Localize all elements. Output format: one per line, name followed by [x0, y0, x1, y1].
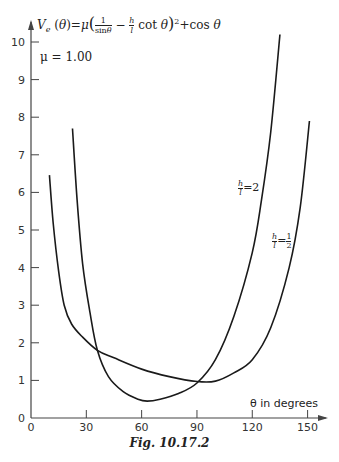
x-tick-label: 150	[297, 421, 318, 434]
axes: 0123456789100306090120150	[11, 20, 328, 434]
y-tick-label: 9	[18, 74, 25, 87]
x-tick-label: 90	[190, 421, 204, 434]
y-tick-label: 2	[18, 337, 25, 350]
mu-annotation: μ = 1.00	[40, 50, 92, 64]
x-tick-label: 30	[79, 421, 93, 434]
x-tick-label: 120	[242, 421, 263, 434]
y-tick-label: 5	[18, 224, 25, 237]
y-tick-label: 7	[18, 149, 25, 162]
curve-h-l-2	[72, 34, 279, 401]
chart-title-formula: Ve (θ)=μ(1sinθ − hl cot θ)2+cos θ	[37, 14, 221, 35]
y-tick-label: 8	[18, 111, 25, 124]
y-axis-arrow-icon	[28, 20, 34, 30]
y-tick-label: 4	[18, 262, 25, 275]
y-tick-label: 10	[11, 36, 25, 49]
x-axis-label: θ in degrees	[250, 397, 318, 410]
figure-caption: Fig. 10.17.2	[0, 436, 339, 450]
curve-label-h-l-half: hl=12	[272, 233, 291, 250]
y-tick-label: 3	[18, 299, 25, 312]
curve-h-l-half	[49, 121, 309, 382]
curve-label-h-l-2: hl=2	[238, 180, 259, 197]
curves	[49, 34, 309, 401]
x-tick-label: 0	[28, 421, 35, 434]
y-tick-label: 6	[18, 186, 25, 199]
y-tick-label: 0	[18, 412, 25, 425]
chart-plot: 0123456789100306090120150	[0, 0, 339, 462]
x-axis-arrow-icon	[318, 415, 328, 421]
y-tick-label: 1	[18, 374, 25, 387]
x-tick-label: 60	[135, 421, 149, 434]
